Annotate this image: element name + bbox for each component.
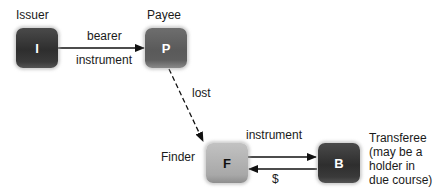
edge-label-instrument-bottom: instrument	[246, 128, 302, 142]
edge-label-instrument-top: instrument	[76, 53, 132, 67]
issuer-node: I	[16, 28, 58, 68]
finder-glyph: F	[223, 156, 231, 171]
transferee-label-line-4: due course)	[369, 173, 432, 187]
payee-label: Payee	[147, 8, 181, 22]
payee-glyph: P	[162, 41, 171, 56]
finder-node: F	[206, 143, 248, 183]
issuer-label: Issuer	[16, 8, 49, 22]
edge-label-lost: lost	[192, 86, 211, 100]
edge-label-dollar: $	[272, 172, 279, 186]
transferee-label-line-2: (may be a	[369, 145, 422, 159]
transferee-label-line-1: Transferee	[369, 131, 427, 145]
transferee-glyph: B	[334, 156, 343, 171]
payee-node: P	[145, 28, 187, 68]
finder-label: Finder	[161, 150, 195, 164]
transferee-node: B	[318, 143, 360, 183]
issuer-glyph: I	[35, 41, 39, 56]
edge-label-bearer: bearer	[87, 29, 122, 43]
transferee-label-line-3: holder in	[369, 159, 415, 173]
edge-payee-to-finder-lost	[169, 69, 203, 141]
